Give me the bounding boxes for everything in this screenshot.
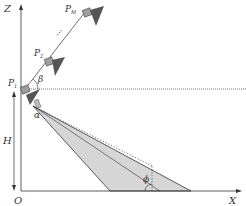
phi-label: ϕ [143,174,149,184]
camera-geometry-diagram: Z X O H P M ... P 2 P 1 β α ϕ [0,0,246,206]
z-axis-label: Z [3,3,12,14]
x-axis-arrow-icon [236,189,242,193]
point-p2-subscript: 2 [39,53,43,59]
camera-icon-pm [82,6,104,26]
alpha-label: α [34,110,40,120]
field-of-view-cone [33,106,191,191]
ellipsis-label: ... [52,25,64,37]
height-arrow-up-icon [12,91,16,97]
height-arrow-down-icon [12,185,16,191]
beta-label: β [37,74,43,84]
z-axis-arrow-icon [19,4,23,10]
origin-label: O [14,195,22,206]
x-axis-label: X [228,195,237,206]
point-pm-subscript: M [70,9,77,15]
point-p1-subscript: 1 [14,83,17,89]
height-label: H [2,135,12,146]
camera-icon-p2 [44,57,65,76]
optical-axis [33,106,160,191]
